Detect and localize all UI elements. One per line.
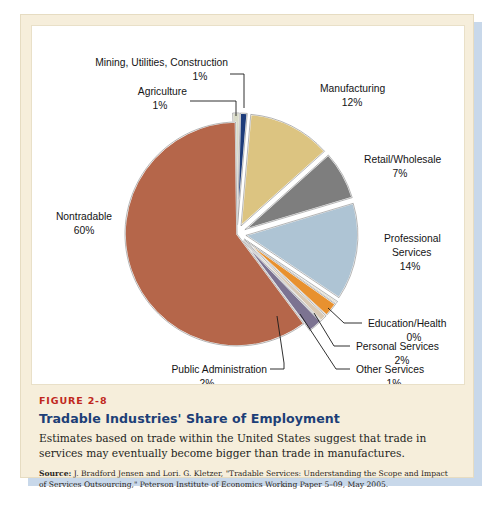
pie-chart: Mining, Utilities, Construction 1% Agric… <box>32 26 464 384</box>
figure-description: Estimates based on trade within the Unit… <box>39 431 457 460</box>
leader-line-agriculture <box>190 101 236 116</box>
label-education: Education/Health <box>368 318 447 329</box>
pie-slice-group <box>125 113 358 346</box>
figure-number: FIGURE 2-8 <box>39 395 457 406</box>
chart-panel: Mining, Utilities, Construction 1% Agric… <box>31 25 465 385</box>
label-agriculture: Agriculture <box>138 86 187 97</box>
label-professional-value: 14% <box>400 261 421 272</box>
leader-line-mining <box>230 74 244 108</box>
label-nontradable-value: 60% <box>74 225 95 236</box>
label-mining-value: 1% <box>193 71 208 82</box>
label-retail: Retail/Wholesale <box>364 154 442 165</box>
label-manufacturing: Manufacturing <box>320 83 386 94</box>
source-label: Source: <box>39 469 71 478</box>
label-manufacturing-value: 12% <box>342 97 363 108</box>
figure-caption: FIGURE 2-8 Tradable Industries' Share of… <box>21 387 475 491</box>
label-personal: Personal Services <box>356 341 439 352</box>
label-professional: Professional <box>384 233 441 244</box>
figure-source: Source: J. Bradford Jensen and Lori. G. … <box>39 469 457 491</box>
figure-root: Mining, Utilities, Construction 1% Agric… <box>0 0 490 531</box>
figure-title: Tradable Industries' Share of Employment <box>39 411 457 426</box>
label-other: Other Services <box>356 364 424 375</box>
label-mining: Mining, Utilities, Construction <box>95 57 228 68</box>
label-other-value: 1% <box>387 378 402 384</box>
leader-line-education <box>328 308 362 323</box>
source-text: J. Bradford Jensen and Lori. G. Kletzer,… <box>39 469 448 489</box>
figure-card: Mining, Utilities, Construction 1% Agric… <box>20 14 474 478</box>
label-retail-value: 7% <box>393 168 408 179</box>
label-professional-line2: Services <box>392 247 431 258</box>
label-public: Public Administration <box>171 364 267 375</box>
label-public-value: 2% <box>200 378 215 384</box>
label-agriculture-value: 1% <box>153 100 168 111</box>
label-nontradable: Nontradable <box>56 211 112 222</box>
